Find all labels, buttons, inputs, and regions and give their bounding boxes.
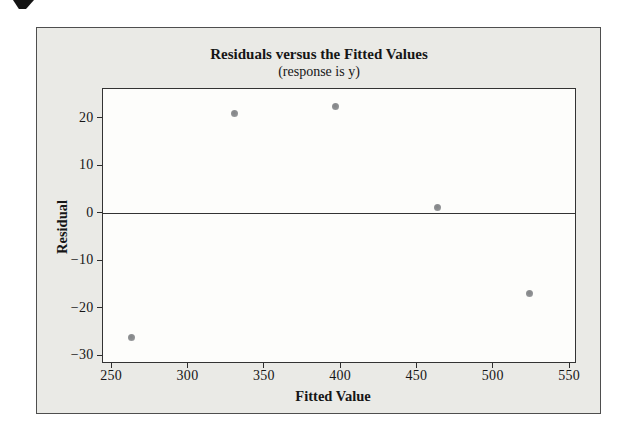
x-tick-label: 500 — [471, 368, 515, 384]
x-tick-label: 350 — [242, 368, 286, 384]
x-tick-label: 450 — [394, 368, 438, 384]
x-tick-label: 400 — [318, 368, 362, 384]
figure-canvas: Residuals versus the Fitted Values (resp… — [0, 0, 633, 440]
y-tick-mark — [97, 260, 102, 261]
y-tick-label: 20 — [48, 110, 94, 126]
y-tick-label: 10 — [48, 157, 94, 173]
y-tick-mark — [97, 307, 102, 308]
data-point — [526, 290, 533, 297]
x-tick-label: 300 — [166, 368, 210, 384]
y-tick-mark — [97, 165, 102, 166]
x-tick-mark — [492, 363, 493, 368]
y-tick-mark — [97, 117, 102, 118]
data-point — [332, 103, 339, 110]
y-tick-label: −10 — [48, 252, 94, 268]
x-tick-mark — [111, 363, 112, 368]
y-tick-label: 0 — [48, 205, 94, 221]
y-tick-label: −20 — [48, 300, 94, 316]
x-tick-mark — [416, 363, 417, 368]
data-point — [434, 204, 441, 211]
data-point — [128, 334, 135, 341]
y-tick-mark — [97, 355, 102, 356]
x-tick-label: 250 — [89, 368, 133, 384]
x-tick-label: 550 — [547, 368, 591, 384]
x-tick-mark — [340, 363, 341, 368]
y-tick-label: −30 — [48, 347, 94, 363]
x-tick-mark — [263, 363, 264, 368]
x-tick-mark — [187, 363, 188, 368]
chart-layer: 25030035040045050055020100−10−20−30 — [0, 0, 633, 440]
data-point — [231, 110, 238, 117]
y-tick-mark — [97, 212, 102, 213]
zero-reference-line — [103, 213, 575, 214]
x-tick-mark — [569, 363, 570, 368]
